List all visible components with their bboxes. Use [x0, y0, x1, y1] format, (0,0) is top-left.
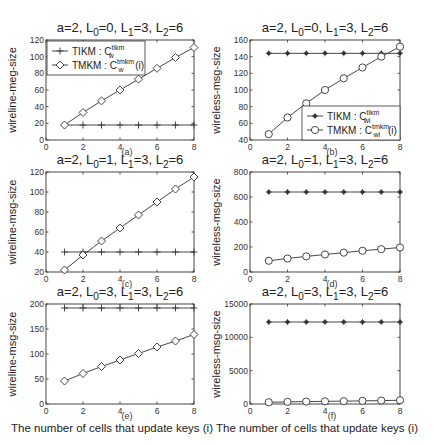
y-tick-label: 400 [234, 217, 248, 227]
y-tick-label: 20 [35, 267, 45, 277]
y-tick-label: 800 [234, 167, 248, 177]
x-tick-label: 8 [398, 274, 403, 284]
y-tick-label: 80 [35, 68, 45, 78]
y-axis-label: wireless-msg-size [210, 310, 222, 398]
y-tick-label: 200 [234, 242, 248, 252]
y-axis-label: wireline-msg-size [6, 180, 18, 266]
y-tick-label: 15000 [224, 299, 248, 309]
y-tick-label: 0 [243, 399, 248, 409]
x-tick-label: 8 [192, 274, 197, 284]
y-tick-label: 60 [239, 118, 249, 128]
x-tick-label: 6 [155, 406, 160, 416]
panel-title: a=2, L0=1, L1=3, L2=6 [57, 152, 184, 170]
y-tick-label: 120 [30, 167, 44, 177]
panel-title: a=2, L0=3, L1=3, L2=6 [262, 284, 389, 302]
x-tick-label: 0 [248, 274, 253, 284]
x-tick-label: 8 [398, 142, 403, 152]
chart-panel-b: a=2, L0=0, L1=3, L2=60246840608010012014… [210, 20, 404, 157]
y-tick-label: 600 [234, 192, 248, 202]
panel-title: a=2, L0=0, L1=3, L2=6 [57, 20, 184, 38]
y-tick-label: 0 [39, 399, 44, 409]
y-tick-label: 5000 [229, 366, 248, 376]
x-tick-label: 0 [44, 142, 49, 152]
x-tick-label: 0 [44, 406, 49, 416]
y-tick-label: 40 [35, 102, 45, 112]
y-tick-label: 10000 [224, 332, 248, 342]
y-tick-label: 100 [30, 349, 44, 359]
y-tick-label: 80 [35, 207, 45, 217]
y-tick-label: 0 [39, 135, 44, 145]
y-tick-label: 150 [30, 324, 44, 334]
y-tick-label: 100 [30, 52, 44, 62]
x-tick-label: 6 [360, 406, 365, 416]
y-axis-label: wireline-meg-size [6, 47, 18, 134]
y-axis-label: wireless-msg-size [210, 46, 222, 134]
plot-area [46, 304, 194, 404]
chart-panel-d: a=2, L0=1, L1=3, L2=6024680200400600800(… [210, 152, 404, 289]
chart-panel-c: a=2, L0=1, L1=3, L2=60246820406080100120… [6, 152, 198, 289]
y-axis-label: wireless-msg-size [210, 178, 222, 266]
x-tick-label: 8 [398, 406, 403, 416]
panel-label: (f) [328, 411, 337, 421]
x-tick-label: 6 [155, 142, 160, 152]
y-tick-label: 160 [234, 35, 248, 45]
y-tick-label: 200 [30, 299, 44, 309]
x-tick-label: 2 [81, 142, 86, 152]
x-tick-label: 2 [285, 274, 290, 284]
y-axis-label: wireline-msg-size [6, 312, 18, 398]
x-axis-label: The number of cells that update keys (i) [11, 422, 213, 434]
x-tick-label: 0 [248, 142, 253, 152]
y-tick-label: 40 [239, 135, 249, 145]
x-tick-label: 2 [285, 406, 290, 416]
x-tick-label: 2 [81, 406, 86, 416]
x-tick-label: 6 [360, 142, 365, 152]
panel-title: a=2, L0=1, L1=3, L2=6 [262, 152, 389, 170]
y-tick-label: 20 [35, 118, 45, 128]
legend: TIKM : CtikmwTMKM : Ctmkmw(i) [47, 41, 145, 75]
x-tick-label: 8 [192, 142, 197, 152]
x-tick-label: 8 [192, 406, 197, 416]
x-tick-label: 6 [155, 274, 160, 284]
panel-title: a=2, L0=0, L1=3, L2=6 [262, 20, 389, 38]
x-tick-label: 2 [285, 142, 290, 152]
y-tick-label: 60 [35, 227, 45, 237]
legend: TIKM : CtikmwlTMKM : Ctmkmwl(i) [302, 106, 400, 140]
y-tick-label: 80 [239, 102, 249, 112]
y-tick-label: 120 [30, 35, 44, 45]
x-tick-label: 0 [248, 406, 253, 416]
x-tick-label: 2 [81, 274, 86, 284]
y-tick-label: 100 [234, 85, 248, 95]
x-tick-label: 6 [360, 274, 365, 284]
chart-panel-e: a=2, L0=3, L1=3, L2=602468050100150200(e… [6, 284, 213, 434]
panel-title: a=2, L0=3, L1=3, L2=6 [57, 284, 184, 302]
y-tick-label: 40 [35, 247, 45, 257]
y-tick-label: 100 [30, 187, 44, 197]
y-tick-label: 60 [35, 85, 45, 95]
x-axis-label: The number of cells that update keys (i) [216, 422, 418, 434]
chart-panel-a: a=2, L0=0, L1=3, L2=60246802040608010012… [6, 20, 198, 157]
y-tick-label: 0 [243, 267, 248, 277]
y-tick-label: 140 [234, 52, 248, 62]
x-tick-label: 0 [44, 274, 49, 284]
figure: a=2, L0=0, L1=3, L2=60246802040608010012… [0, 0, 434, 445]
plot-area [46, 172, 194, 272]
panel-label: (e) [122, 411, 133, 421]
y-tick-label: 50 [35, 374, 45, 384]
chart-panel-f: a=2, L0=3, L1=3, L2=60246805000100001500… [210, 284, 418, 434]
y-tick-label: 120 [234, 68, 248, 78]
